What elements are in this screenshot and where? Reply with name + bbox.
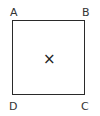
vertex-label-c: C	[81, 101, 89, 112]
center-cross-icon: ×	[43, 52, 56, 67]
vertex-label-d: D	[9, 101, 17, 112]
vertex-label-a: A	[10, 7, 18, 18]
vertex-label-b: B	[82, 7, 90, 18]
